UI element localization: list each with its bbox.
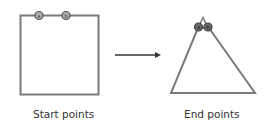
point-b-label: b — [64, 13, 67, 19]
end-triangle-shape — [171, 18, 255, 94]
end-point-b: b — [204, 23, 212, 31]
start-points-caption: Start points — [33, 108, 94, 120]
start-point-b: b — [62, 12, 70, 20]
end-points-caption: End points — [184, 108, 240, 120]
end-point-b-label: b — [206, 24, 209, 30]
start-point-a: a — [35, 12, 43, 20]
start-square-shape — [21, 16, 99, 95]
right-arrow-icon — [115, 52, 161, 58]
end-point-a-label: a — [197, 24, 200, 30]
end-point-a: a — [195, 23, 203, 31]
point-a-label: a — [37, 13, 40, 19]
